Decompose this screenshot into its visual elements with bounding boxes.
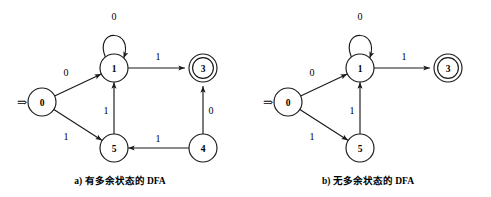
dfa-panel-panel-a: 010111001354⇒a) 有多余状态的 DFA [17,11,217,188]
edge-1-to-1: 0 [349,11,371,58]
state-label: 4 [201,144,206,154]
edge-label: 1 [156,51,161,62]
state-node-5[interactable]: 5 [346,134,374,162]
edge-label: 1 [402,51,407,62]
state-label: 1 [358,64,363,74]
edge-0-to-1: 0 [301,67,347,96]
state-label: 3 [446,64,451,74]
edge-4-to-3: 0 [203,87,214,134]
edge-0-to-5: 1 [300,110,348,142]
edge-label: 1 [156,133,161,144]
state-label: 5 [358,144,363,154]
panel-caption: b) 无多余状态的 DFA [322,175,414,187]
edge-label: 0 [310,67,315,78]
edge-5-to-1: 1 [350,83,361,134]
state-node-4[interactable]: 4 [189,134,217,162]
dfa-panel-panel-b: 010110135⇒b) 无多余状态的 DFA [263,11,462,188]
edge-5-to-1: 1 [104,83,115,134]
edge-label: 0 [64,67,69,78]
dfa-figure: 010111001354⇒a) 有多余状态的 DFA010110135⇒b) 无… [0,0,491,197]
edge-0-to-1: 0 [55,67,101,96]
state-node-3[interactable]: 3 [434,54,462,82]
state-node-0[interactable]: 0 [274,88,302,116]
edge-label: 1 [350,105,355,116]
edge-label: 0 [358,11,363,22]
edge-label: 1 [310,131,315,142]
edge-label: 1 [64,131,69,142]
start-state-arrow-icon: ⇒ [17,95,27,109]
state-label: 0 [286,98,291,108]
figure-layer: 010111001354⇒a) 有多余状态的 DFA010110135⇒b) 无… [17,11,462,188]
state-label: 5 [112,144,117,154]
state-label: 3 [201,64,206,74]
edge-line [54,110,102,140]
edge-1-to-3: 1 [129,51,185,69]
state-label: 1 [112,64,117,74]
state-label: 0 [40,98,45,108]
state-node-1[interactable]: 1 [346,54,374,82]
edge-line [300,110,348,140]
edge-label: 0 [209,105,214,116]
start-state-arrow-icon: ⇒ [263,95,273,109]
edge-line [301,74,347,96]
edge-label: 1 [104,105,109,116]
state-node-0[interactable]: 0 [28,88,56,116]
edge-line [55,74,101,96]
edge-1-to-1: 0 [103,11,125,58]
panel-caption: a) 有多余状态的 DFA [74,175,166,187]
state-node-3[interactable]: 3 [189,54,217,82]
state-node-5[interactable]: 5 [100,134,128,162]
edge-label: 0 [112,11,117,22]
edge-4-to-5: 1 [129,133,189,149]
edge-0-to-5: 1 [54,110,102,142]
edge-1-to-3: 1 [375,51,430,69]
state-node-1[interactable]: 1 [100,54,128,82]
